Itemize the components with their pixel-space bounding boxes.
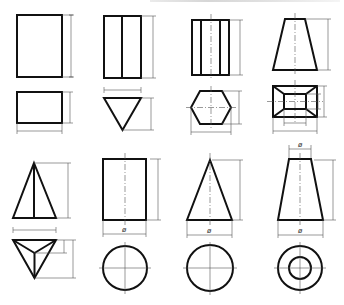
height-dimension (229, 20, 243, 75)
top-view (99, 242, 151, 294)
top-view (186, 86, 236, 129)
height-dimension (305, 19, 331, 70)
square-frustum (267, 13, 331, 134)
front-view (13, 163, 56, 218)
top-view (183, 242, 237, 295)
cone-frustum: ø ø (274, 141, 336, 294)
front-view (273, 13, 317, 76)
height-dimension (141, 16, 156, 78)
technical-drawing: ø ø (0, 0, 344, 305)
diameter-dimension: ø (187, 220, 232, 238)
height-dimension (146, 159, 161, 220)
diameter-dimension: ø (103, 220, 146, 237)
diameter-symbol: ø (121, 226, 127, 234)
triangular-prism (104, 16, 156, 130)
width-dimension (13, 227, 56, 233)
top-view (274, 242, 326, 294)
front-view (104, 16, 141, 78)
front-view (103, 153, 146, 225)
triangular-pyramid (13, 163, 76, 278)
front-view (192, 14, 229, 80)
diameter-symbol: ø (297, 141, 303, 149)
width-dimension (17, 123, 62, 134)
front-view (278, 153, 323, 226)
height-dimension (62, 15, 74, 77)
cylinder: ø (99, 153, 161, 294)
top-view (104, 98, 141, 130)
hexagonal-prism (186, 14, 243, 135)
diameter-symbol: ø (206, 227, 212, 235)
front-view (17, 15, 62, 77)
cone: ø (183, 153, 243, 295)
bottom-diameter-dimension: ø (278, 220, 323, 238)
diameter-symbol: ø (297, 227, 303, 235)
rectangular-block (17, 15, 74, 134)
height-dimension (212, 160, 243, 220)
width-dimension (104, 87, 141, 93)
top-view (17, 92, 62, 123)
depth-dimension (62, 92, 73, 123)
front-view (187, 153, 232, 226)
outer-width-dimension (273, 117, 317, 134)
depth-dimension (35, 240, 77, 278)
top-view (13, 240, 56, 278)
top-view (267, 80, 323, 122)
